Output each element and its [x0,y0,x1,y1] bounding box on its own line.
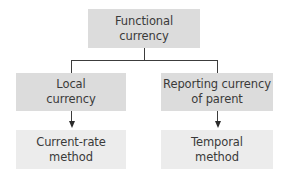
node-temporal-method: Temporal method [161,130,273,169]
node-label: Reporting currency of parent [163,77,271,107]
node-label: Local currency [46,77,95,107]
arrow-down-icon [215,121,221,128]
node-current-rate-method: Current-rate method [16,130,126,169]
node-label: Current-rate method [36,135,106,165]
node-label: Temporal method [191,135,243,165]
connector-right-drop [217,60,218,73]
connector-horizontal [71,60,218,61]
node-reporting-currency-of-parent: Reporting currency of parent [161,73,273,111]
connector-root-stem [144,48,145,60]
connector-left-drop [71,60,72,73]
node-functional-currency: Functional currency [88,9,200,48]
arrow-down-icon [69,121,75,128]
node-label: Functional currency [115,14,173,44]
node-local-currency: Local currency [16,73,126,111]
